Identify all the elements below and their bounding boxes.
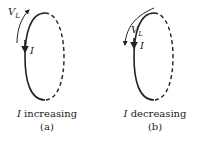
current-label-b: I xyxy=(140,40,144,51)
current-label-a: I xyxy=(30,45,34,56)
sublabel-a: (a) xyxy=(14,121,80,132)
loop-b xyxy=(125,8,173,100)
loop-a xyxy=(17,10,64,100)
caption-b: I decreasing xyxy=(112,108,198,119)
loop-a-solid-arc xyxy=(25,13,45,100)
loop-a-dashed-arc xyxy=(45,13,64,100)
vl-label-a: VL xyxy=(8,6,20,20)
sublabel-b: (b) xyxy=(112,121,198,132)
vl-label-b: VL xyxy=(131,24,143,38)
loop-b-dashed-arc xyxy=(154,13,173,100)
caption-a: I increasing xyxy=(14,108,80,119)
